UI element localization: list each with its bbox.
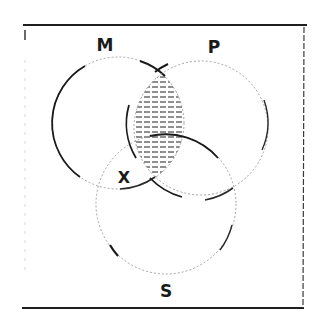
label-m: M bbox=[97, 37, 114, 54]
label-s: S bbox=[160, 283, 172, 300]
venn-diagram bbox=[0, 0, 323, 325]
shaded-region-m-and-p bbox=[134, 61, 268, 195]
label-p: P bbox=[208, 39, 220, 56]
x-mark: X bbox=[118, 170, 130, 186]
